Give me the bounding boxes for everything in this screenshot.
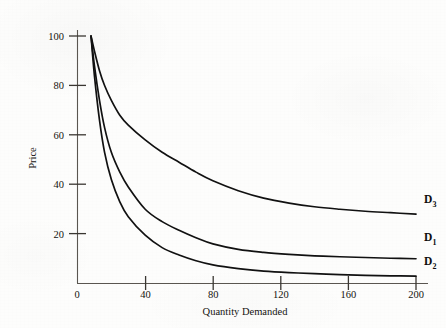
- x-axis-tick-labels: 40 80 120 160 200: [140, 289, 424, 300]
- y-axis-tick-labels: 100 80 60 40 20 0: [48, 31, 79, 300]
- x-axis-title: Quantity Demanded: [203, 306, 289, 317]
- y-tick-label-0: 0: [74, 289, 79, 300]
- y-tick-label-80: 80: [54, 80, 65, 91]
- y-tick-label-20: 20: [54, 229, 65, 240]
- figure-root: 100 80 60 40 20 0 40 80 120 160 200 Quan…: [0, 0, 446, 328]
- axes-group: [77, 30, 428, 284]
- curves-group: [91, 36, 416, 276]
- curve-label-d1-subscript: 1: [433, 238, 437, 247]
- x-tick-label-200: 200: [408, 289, 424, 300]
- curve-label-d3-subscript: 3: [433, 200, 437, 209]
- demand-curve-d1: [91, 36, 416, 259]
- x-tick-label-160: 160: [341, 289, 357, 300]
- demand-curves-chart: 100 80 60 40 20 0 40 80 120 160 200 Quan…: [0, 0, 446, 328]
- curve-label-d2-subscript: 2: [433, 262, 437, 271]
- demand-curve-d2: [91, 36, 416, 276]
- curve-label-d2: D: [424, 255, 432, 267]
- x-tick-label-80: 80: [208, 289, 219, 300]
- curve-labels-group: D 3 D 1 D 2: [424, 193, 437, 271]
- x-tick-label-40: 40: [140, 289, 151, 300]
- y-tick-label-60: 60: [54, 130, 65, 141]
- demand-curve-d3: [91, 36, 416, 214]
- y-tick-label-40: 40: [54, 179, 65, 190]
- curve-label-d3: D: [424, 193, 432, 205]
- y-tick-label-100: 100: [48, 31, 64, 42]
- curve-label-d1: D: [424, 231, 432, 243]
- x-tick-label-120: 120: [273, 289, 289, 300]
- y-axis-title: Price: [27, 147, 38, 169]
